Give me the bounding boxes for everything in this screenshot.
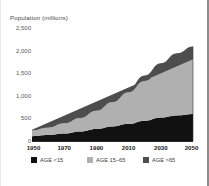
legend-swatch-icon — [143, 157, 149, 163]
chart-legend: AGE <15AGE 15–65AGE >65 — [1, 157, 209, 171]
legend-swatch-icon — [87, 157, 93, 163]
x-axis-tick-label: 1970 — [57, 144, 71, 151]
x-axis-tick-label: 1950 — [27, 144, 41, 151]
legend-swatch-icon — [31, 157, 37, 163]
legend-label: AGE 15–65 — [96, 157, 125, 163]
legend-item[interactable]: AGE <15 — [31, 157, 63, 163]
chart-figure: Population (millions) 05001,0001,5002,00… — [0, 0, 209, 186]
x-axis-tick-label: 2030 — [154, 144, 168, 151]
x-axis-tick-label: 2010 — [122, 144, 136, 151]
x-axis-tick-label: 2050 — [185, 144, 199, 151]
legend-label: AGE <15 — [40, 157, 63, 163]
x-axis-tick-label: 1990 — [90, 144, 104, 151]
legend-item[interactable]: AGE >65 — [143, 157, 175, 163]
legend-item[interactable]: AGE 15–65 — [87, 157, 125, 163]
legend-label: AGE >65 — [152, 157, 175, 163]
series-layer — [32, 47, 193, 141]
